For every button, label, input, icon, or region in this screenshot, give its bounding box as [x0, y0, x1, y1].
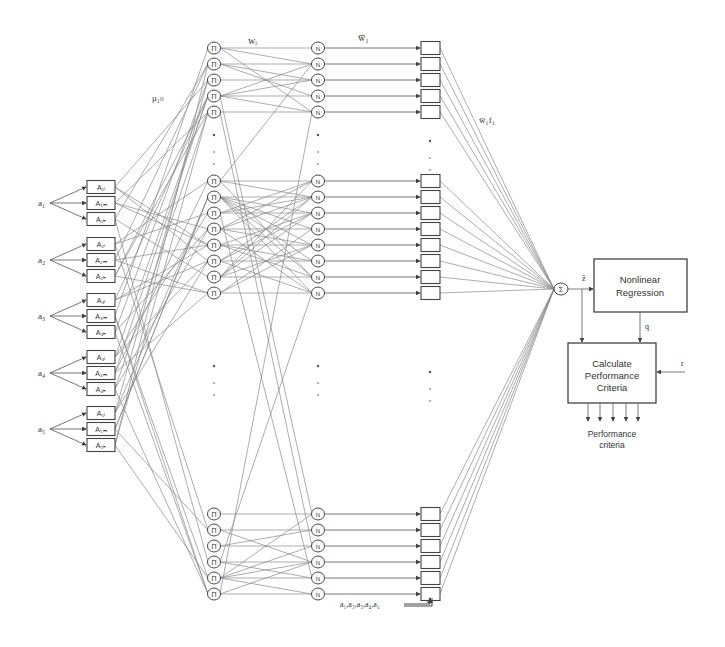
product-node: Π	[208, 572, 221, 584]
svg-text:N: N	[316, 46, 320, 52]
membership-function-label: A₂ₗ	[97, 241, 105, 248]
membership-function-label: A₃ₘ	[95, 313, 107, 320]
normalization-node: N	[312, 223, 325, 235]
input-label: a₅	[38, 424, 45, 434]
consequent-node	[421, 191, 440, 204]
normalized-weight-label: w̅₁	[358, 32, 369, 43]
svg-text:Π: Π	[211, 210, 216, 217]
anfis-diagram: a₁A₁ₗA₁ₘA₁ₕa₂A₂ₗA₂ₘA₂ₕa₃A₃ₗA₃ₘA₃ₕa₄A₄ₗA₄…	[0, 0, 725, 647]
normalization-node: N	[312, 572, 325, 584]
network-nodes: a₁A₁ₗA₁ₘA₁ₕa₂A₂ₗA₂ₘA₂ₕa₃A₃ₗA₃ₘA₃ₕa₄A₄ₗA₄…	[38, 42, 440, 601]
product-node: Π	[208, 90, 221, 102]
normalization-node: N	[312, 255, 325, 267]
product-node: Π	[208, 556, 221, 568]
svg-text:Π: Π	[211, 109, 216, 116]
svg-text:N: N	[316, 110, 320, 116]
membership-function-label: A₄ₗ	[97, 354, 106, 361]
svg-text:N: N	[316, 291, 320, 297]
normalization-node: N	[312, 556, 325, 568]
consequent-node	[421, 58, 440, 71]
product-node: Π	[208, 287, 221, 299]
svg-text:Π: Π	[211, 194, 216, 201]
svg-text:Π: Π	[211, 511, 216, 518]
svg-text:Π: Π	[211, 591, 216, 598]
product-node: Π	[208, 42, 221, 54]
ellipsis-dot	[429, 371, 431, 373]
membership-function-label: A₂ₕ	[96, 273, 106, 280]
ellipsis-dot	[213, 382, 215, 384]
input-label: a₂	[38, 255, 45, 265]
svg-text:N: N	[316, 512, 320, 518]
z-hat-label: ẑ	[582, 274, 586, 283]
product-node: Π	[208, 508, 221, 520]
membership-function-label: A₁ₗ	[97, 184, 105, 191]
q-label: q	[645, 322, 649, 331]
consequent-node	[421, 572, 440, 585]
input-label: a₃	[38, 311, 45, 321]
ellipsis-dot	[429, 169, 431, 171]
regression-line1: Nonlinear	[620, 274, 661, 285]
svg-text:Π: Π	[211, 61, 216, 68]
consequent-node	[421, 556, 440, 569]
membership-function-label: A₅ₗ	[97, 410, 106, 417]
svg-text:Π: Π	[211, 274, 216, 281]
normalization-node: N	[312, 58, 325, 70]
ellipsis-dot	[429, 388, 431, 390]
svg-text:Π: Π	[211, 575, 216, 582]
regression-line2: Regression	[616, 287, 664, 298]
product-node: Π	[208, 588, 221, 600]
svg-text:N: N	[316, 211, 320, 217]
svg-text:N: N	[316, 275, 320, 281]
product-node: Π	[208, 223, 221, 235]
ellipsis-dot	[429, 400, 431, 402]
svg-text:N: N	[316, 243, 320, 249]
svg-text:Π: Π	[211, 527, 216, 534]
normalization-node: N	[312, 90, 325, 102]
consequent-node	[421, 540, 440, 553]
svg-text:N: N	[316, 78, 320, 84]
normalization-node: N	[312, 175, 325, 187]
consequent-node	[421, 207, 440, 220]
product-node: Π	[208, 74, 221, 86]
normalization-node: N	[312, 191, 325, 203]
ellipsis-dot	[317, 151, 319, 153]
svg-text:Π: Π	[211, 559, 216, 566]
ellipsis-dot	[213, 151, 215, 153]
product-node: Π	[208, 540, 221, 552]
normalization-node: N	[312, 74, 325, 86]
consequent-node	[421, 271, 440, 284]
svg-text:Π: Π	[211, 226, 216, 233]
ellipsis-dot	[317, 394, 319, 396]
membership-function-label: A₅ₘ	[95, 426, 107, 433]
membership-label: μ₁ₗₗ	[152, 93, 164, 103]
product-node: Π	[208, 255, 221, 267]
svg-text:N: N	[316, 544, 320, 550]
product-node: Π	[208, 191, 221, 203]
product-node: Π	[208, 106, 221, 118]
normalization-node: N	[312, 271, 325, 283]
svg-text:N: N	[316, 576, 320, 582]
ellipsis-dot	[317, 134, 319, 136]
svg-text:N: N	[316, 560, 320, 566]
svg-text:Π: Π	[211, 178, 216, 185]
product-node: Π	[208, 58, 221, 70]
performance-line3: Criteria	[597, 382, 628, 393]
consequent-node	[421, 287, 440, 300]
consequent-node	[421, 223, 440, 236]
product-node: Π	[208, 524, 221, 536]
normalization-node: N	[312, 239, 325, 251]
performance-line2: Performance	[585, 370, 639, 381]
svg-text:N: N	[316, 62, 320, 68]
membership-function-label: A₅ₕ	[96, 442, 107, 449]
svg-text:Π: Π	[211, 45, 216, 52]
membership-function-label: A₁ₕ	[96, 216, 106, 223]
consequent-node	[421, 90, 440, 103]
normalization-node: N	[312, 287, 325, 299]
consequent-node	[421, 255, 440, 268]
consequent-node	[421, 175, 440, 188]
membership-function-label: A₃ₕ	[96, 329, 107, 336]
performance-line1: Calculate	[592, 358, 632, 369]
performance-output-line2: criteria	[599, 440, 625, 450]
svg-text:N: N	[316, 259, 320, 265]
svg-text:Π: Π	[211, 258, 216, 265]
